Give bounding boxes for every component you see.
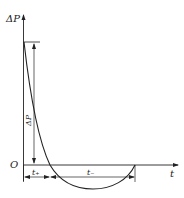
origin-label: O: [10, 159, 18, 170]
amplitude-label: ΔP: [24, 114, 33, 127]
y-axis-label: ΔP: [5, 13, 20, 24]
negative-phase-label: t₋: [87, 168, 94, 177]
x-axis-label: t: [170, 168, 175, 179]
pressure-curve: [24, 42, 135, 189]
positive-phase-label: t₊: [32, 168, 39, 177]
pressure-time-diagram: ΔP t O ΔP t₊ t₋: [0, 0, 184, 198]
